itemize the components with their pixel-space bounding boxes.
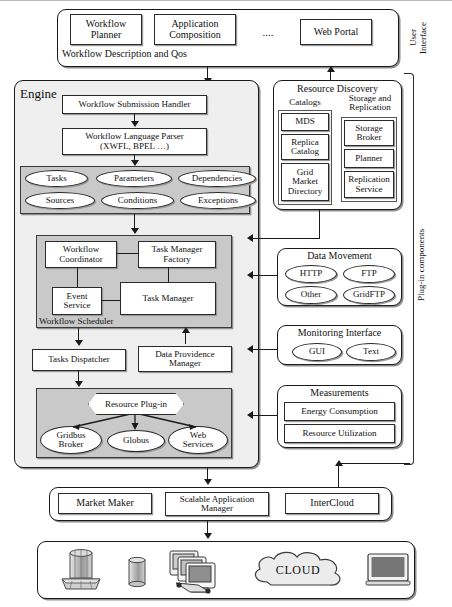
tasks-dispatcher[interactable]: Tasks Dispatcher — [32, 349, 126, 371]
element-dependencies[interactable]: Dependencies — [178, 170, 256, 187]
panel-title-text: Data Movement — [307, 250, 372, 261]
storage-planner[interactable]: Planner — [344, 149, 394, 168]
monitor-icon — [365, 552, 413, 590]
provider-label: Globus — [123, 436, 149, 445]
middleware-label: Scalable ApplicationManager — [180, 495, 255, 514]
arrow-providence-to-scheduler — [182, 327, 190, 333]
element-sources[interactable]: Sources — [25, 192, 95, 209]
resource-plugin-hex[interactable]: Resource Plug-in — [88, 393, 182, 413]
element-exceptions[interactable]: Exceptions — [180, 192, 256, 209]
monitoring-label: Text — [363, 347, 379, 356]
middleware-label: InterCloud — [310, 498, 353, 509]
arrow-scheduler-to-dispatcher — [75, 340, 83, 346]
measurement-label: Energy Consumption — [301, 407, 378, 416]
replication-service[interactable]: ReplicationService — [344, 171, 394, 198]
storage-cylinder-icon — [125, 556, 149, 588]
side-label-user-interface: UserInterface — [409, 10, 428, 66]
providence-label: Data ProvidenceManager — [155, 350, 215, 369]
workflow-submission-handler[interactable]: Workflow Submission Handler — [62, 95, 207, 114]
connector-monitoring-to-engine — [252, 349, 278, 350]
middleware-intercloud[interactable]: InterCloud — [285, 493, 379, 514]
panel-title-text: Measurements — [310, 387, 368, 398]
storage-broker[interactable]: StorageBroker — [344, 120, 394, 146]
coordinator-label: WorkflowCoordinator — [59, 245, 103, 264]
protocol-label: GridFTP — [353, 290, 385, 299]
arrow-elements-to-scheduler — [131, 228, 139, 234]
ui-item-application-composition[interactable]: ApplicationComposition — [154, 14, 236, 45]
link-coordinator-event — [77, 268, 78, 287]
data-providence-manager[interactable]: Data ProvidenceManager — [138, 346, 232, 372]
link-event-taskmanager — [102, 300, 120, 301]
element-conditions[interactable]: Conditions — [101, 192, 174, 209]
arrow-handler-to-parser — [131, 121, 139, 127]
monitoring-label: GUI — [309, 347, 325, 356]
event-service[interactable]: EventService — [52, 287, 102, 315]
measurements-title: Measurements — [277, 387, 402, 398]
catalog-mds[interactable]: MDS — [281, 113, 329, 131]
connector-bracket-bottom — [338, 463, 410, 464]
ui-item-workflow-planner[interactable]: WorkflowPlanner — [70, 14, 142, 45]
data-movement-gridftp[interactable]: GridFTP — [343, 286, 395, 304]
arrow-engine-to-middleware — [204, 479, 212, 485]
task-manager-factory[interactable]: Task ManagerFactory — [138, 241, 216, 268]
measurement-label: Resource Utilization — [302, 429, 376, 438]
workflow-coordinator[interactable]: WorkflowCoordinator — [45, 241, 117, 268]
ui-item-label: ApplicationComposition — [169, 19, 221, 40]
task-manager[interactable]: Task Manager — [120, 282, 216, 315]
catalog-label: ReplicaCatalog — [291, 138, 319, 157]
arrow-dispatcher-to-plugin — [75, 381, 83, 387]
data-movement-title: Data Movement — [277, 250, 402, 261]
storage-label: StorageBroker — [355, 124, 383, 143]
panel-title-text: Monitoring Interface — [298, 327, 382, 338]
protocol-label: Other — [301, 290, 322, 299]
catalog-grid-market-directory[interactable]: GridMarketDirectory — [281, 163, 329, 201]
cloud-label: CLOUD — [245, 563, 351, 578]
storage-label: Planner — [355, 154, 383, 163]
catalog-replica-catalog[interactable]: ReplicaCatalog — [281, 134, 329, 160]
arrow-engine-to-ui — [327, 66, 335, 72]
data-movement-ftp[interactable]: FTP — [343, 265, 395, 283]
ui-item-web-portal[interactable]: Web Portal — [300, 19, 372, 45]
connector-datamovement-to-engine — [252, 275, 278, 276]
connector-discovery-drop — [319, 210, 320, 238]
factory-label: Task ManagerFactory — [151, 245, 202, 264]
event-service-label: EventService — [64, 292, 91, 311]
arrow-discovery-to-engine — [247, 234, 253, 242]
element-label: Tasks — [46, 174, 66, 183]
middleware-scalable-application-manager[interactable]: Scalable ApplicationManager — [165, 492, 269, 516]
link-factory-taskmanager — [168, 268, 169, 282]
workflow-language-parser[interactable]: Workflow Language Parser(XWFL, BPEL …) — [62, 128, 207, 155]
arrow-measurements-to-engine — [247, 411, 253, 419]
architecture-diagram: WorkflowPlanner ApplicationComposition .… — [0, 0, 452, 607]
measurement-resource-utilization[interactable]: Resource Utilization — [284, 424, 395, 443]
monitoring-interface-title: Monitoring Interface — [277, 327, 402, 338]
monitoring-text[interactable]: Text — [346, 343, 396, 361]
submission-handler-label: Workflow Submission Handler — [79, 100, 191, 109]
middleware-market-maker[interactable]: Market Maker — [58, 493, 152, 514]
side-label-plugin-components: Plug-in components — [417, 205, 427, 325]
link-coordinator-factory — [117, 253, 138, 254]
element-label: Dependencies — [192, 174, 242, 183]
element-tasks[interactable]: Tasks — [25, 170, 88, 187]
storage-replication-title: Storage andReplication — [340, 94, 400, 113]
data-movement-http[interactable]: HTTP — [285, 265, 337, 283]
connector-measurements-to-engine — [252, 415, 278, 416]
ui-item-label: WorkflowPlanner — [86, 19, 126, 40]
provider-globus[interactable]: Globus — [107, 430, 165, 452]
measurement-energy-consumption[interactable]: Energy Consumption — [284, 402, 395, 421]
top-crop-line — [0, 0, 452, 1]
storage-label: ReplicationService — [348, 175, 390, 194]
arrow-middleware-to-infra — [204, 533, 212, 539]
language-parser-label: Workflow Language Parser(XWFL, BPEL …) — [85, 132, 184, 151]
arrow-monitoring-to-engine — [247, 345, 253, 353]
data-movement-other[interactable]: Other — [285, 286, 337, 304]
ui-item-label: Web Portal — [314, 27, 358, 38]
monitoring-gui[interactable]: GUI — [292, 343, 342, 361]
provider-label: WebServices — [183, 431, 214, 449]
tasks-dispatcher-label: Tasks Dispatcher — [48, 355, 110, 364]
workflow-scheduler-label: Workflow Scheduler — [39, 316, 159, 328]
ui-footer-label: Workflow Description and Qos — [62, 48, 242, 62]
element-parameters[interactable]: Parameters — [96, 170, 172, 187]
provider-label: GridbusBroker — [57, 431, 86, 449]
element-label: Exceptions — [198, 196, 238, 205]
